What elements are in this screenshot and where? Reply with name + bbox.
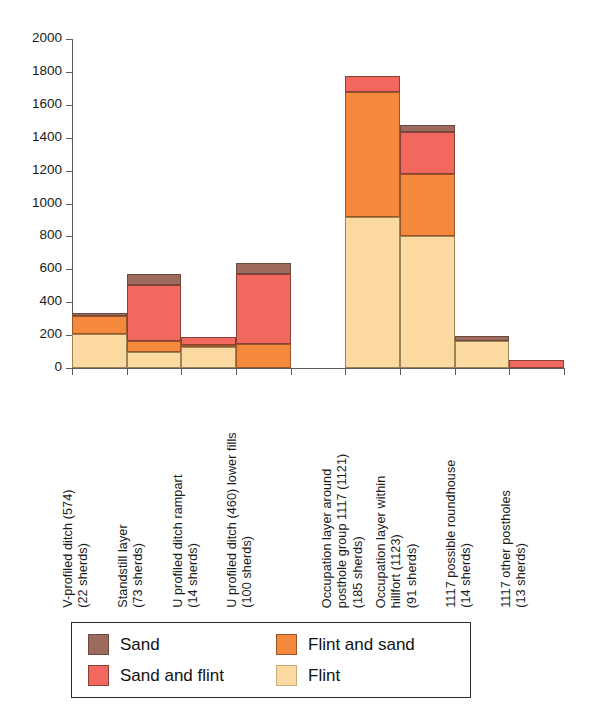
x-axis-tick (127, 369, 128, 375)
legend-color-swatch (88, 634, 109, 655)
x-axis-category-label-line: (14 sherds) (460, 460, 475, 608)
x-axis-tick (345, 369, 346, 375)
legend-item[interactable]: Sand and flint (88, 665, 224, 686)
x-axis-category-label-line: U profiled ditch (460) lower fills (226, 432, 241, 608)
bar-segment[interactable] (236, 274, 291, 344)
legend-item-label: Flint (308, 666, 340, 686)
x-axis-tick (236, 369, 237, 375)
y-axis-tick-label: 2000 (0, 30, 62, 45)
y-axis-tick-label: 1200 (0, 162, 62, 177)
x-axis-category-label: U profiled ditch rampart(14 sherds) (171, 475, 202, 608)
x-axis-category-label-line: (185 sherds) (350, 453, 365, 608)
x-axis-labels: V-profiled ditch (574)(22 sherds)Standst… (72, 376, 564, 608)
bar-segment[interactable] (127, 274, 182, 285)
bar-stack[interactable] (236, 39, 291, 368)
bar-segment[interactable] (400, 132, 455, 174)
bar-segment[interactable] (509, 360, 564, 368)
x-axis-category-label-line: (13 sherds) (514, 490, 529, 608)
x-axis-category-label-line: (100 sherds) (241, 432, 256, 608)
chart-legend: SandFlint and sandSand and flintFlint (71, 622, 471, 698)
x-axis-tick (291, 369, 292, 375)
y-axis-tick-label: 1400 (0, 129, 62, 144)
bar-stack[interactable] (400, 39, 455, 368)
bar-segment[interactable] (127, 285, 182, 341)
bar-segment[interactable] (181, 347, 236, 368)
bar-segment[interactable] (400, 174, 455, 237)
bar-segment[interactable] (236, 263, 291, 275)
x-axis-category-label-line: V-profiled ditch (574) (62, 490, 77, 608)
bar-segment[interactable] (72, 313, 127, 316)
bar-stack[interactable] (509, 39, 564, 368)
bar-segment[interactable] (127, 341, 182, 353)
x-axis-category-label: U profiled ditch (460) lower fills(100 s… (226, 432, 257, 608)
x-axis-category-label-line: Occupation layer within (374, 476, 389, 609)
x-axis-category-label-line: (14 sherds) (186, 475, 201, 608)
bar-segment[interactable] (345, 76, 400, 92)
x-axis-tick (181, 369, 182, 375)
y-axis-tick-label: 800 (0, 227, 62, 242)
bar-segment[interactable] (236, 344, 291, 368)
bar-segment[interactable] (455, 336, 510, 341)
legend-item[interactable]: Flint (276, 665, 340, 686)
bar-segment[interactable] (72, 334, 127, 368)
bar-segment[interactable] (400, 236, 455, 368)
x-axis-category-label-line: Standstill layer (116, 525, 131, 609)
y-axis-tick-label: 400 (0, 293, 62, 308)
y-axis-tick-label: 0 (0, 359, 62, 374)
bar-stack[interactable] (455, 39, 510, 368)
x-axis-category-label-line: Occupation layer around (319, 453, 334, 608)
x-axis-category-label-line: (73 sherds) (132, 525, 147, 609)
x-axis-category-label: Occupation layer withinhillfort (1123)(9… (374, 476, 420, 609)
x-axis-category-label-line: (22 sherds) (77, 490, 92, 608)
bar-stack[interactable] (345, 39, 400, 368)
y-axis-tick-label: 200 (0, 326, 62, 341)
x-axis-tick (72, 369, 73, 375)
x-axis-category-label-line: posthole group 1117 (1121) (335, 453, 350, 608)
y-axis-tick-label: 1000 (0, 195, 62, 210)
x-axis-tick (400, 369, 401, 375)
y-axis-tick-label: 1600 (0, 96, 62, 111)
legend-color-swatch (276, 634, 297, 655)
bar-stack[interactable] (127, 39, 182, 368)
legend-item[interactable]: Flint and sand (276, 634, 415, 655)
bar-stack[interactable] (181, 39, 236, 368)
x-axis-tick (455, 369, 456, 375)
x-axis-category-label-line: hillfort (1123) (390, 476, 405, 609)
x-axis-category-label: Occupation layer aroundposthole group 11… (319, 453, 365, 608)
x-axis-category-label: 1117 possible roundhouse(14 sherds) (444, 460, 475, 608)
bar-segment[interactable] (345, 92, 400, 218)
bar-segment[interactable] (127, 352, 182, 368)
x-axis-category-label: V-profiled ditch (574)(22 sherds) (62, 490, 93, 608)
x-axis-category-label: Standstill layer(73 sherds) (116, 525, 147, 609)
x-axis-category-label-line: 1117 other postholes (499, 490, 514, 608)
bar-segment[interactable] (345, 217, 400, 368)
bar-segment[interactable] (400, 125, 455, 132)
plot-area (72, 39, 564, 368)
x-axis-tick (564, 369, 565, 375)
bar-segment[interactable] (181, 337, 236, 345)
legend-item[interactable]: Sand (88, 634, 160, 655)
x-axis-category-label-line: 1117 possible roundhouse (444, 460, 459, 608)
x-axis-category-label-line: U profiled ditch rampart (171, 475, 186, 608)
y-axis-tick-label: 1800 (0, 63, 62, 78)
x-axis-tick (509, 369, 510, 375)
y-axis-tick-label: 600 (0, 260, 62, 275)
bar-stack[interactable] (72, 39, 127, 368)
bar-segment[interactable] (72, 316, 127, 334)
bar-segment[interactable] (455, 341, 510, 368)
stacked-bar-chart: 0200400600800100012001400160018002000 V-… (0, 0, 614, 727)
legend-item-label: Sand (120, 635, 160, 655)
legend-color-swatch (276, 665, 297, 686)
legend-item-label: Sand and flint (120, 666, 224, 686)
x-axis-line (72, 368, 565, 369)
x-axis-category-label: 1117 other postholes(13 sherds) (499, 490, 530, 608)
legend-color-swatch (88, 665, 109, 686)
legend-item-label: Flint and sand (308, 635, 415, 655)
x-axis-category-label-line: (91 sherds) (405, 476, 420, 609)
